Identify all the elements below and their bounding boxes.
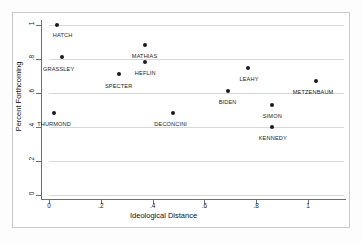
data-point-label: SIMON (263, 113, 282, 119)
y-tick-mark (36, 195, 42, 196)
data-point-label: BIDEN (219, 99, 237, 105)
x-tick-label: .4 (143, 202, 163, 209)
y-tick-mark (36, 25, 42, 26)
data-point-label: LEAHY (239, 76, 258, 82)
data-point (270, 125, 274, 129)
y-axis-line (41, 20, 42, 200)
data-point (143, 43, 147, 47)
data-point-label: SPECTER (105, 83, 132, 89)
data-point-label: HATCH (53, 32, 73, 38)
scatter-plot-figure: 0.2.4.6.81 0.2.4.6.81 HATCHGRASSLEYTHURM… (0, 0, 362, 242)
data-point-label: GRASSLEY (43, 66, 74, 72)
plot-area: 0.2.4.6.81 0.2.4.6.81 HATCHGRASSLEYTHURM… (0, 0, 362, 242)
data-point-label: HEFLIN (135, 70, 156, 76)
gridline-y (49, 161, 344, 162)
data-point (55, 23, 59, 27)
y-tick-mark (36, 59, 42, 60)
x-tick-label: .8 (246, 202, 266, 209)
x-tick-label: 0 (39, 202, 59, 209)
gridline-y (49, 127, 344, 128)
gridline-y (49, 25, 344, 26)
y-tick-label: 1 (18, 20, 34, 27)
x-tick-label: 1 (298, 202, 318, 209)
data-point (314, 79, 318, 83)
x-axis-line (41, 199, 346, 200)
y-tick-label: .2 (18, 156, 34, 163)
x-tick-label: .2 (91, 202, 111, 209)
y-axis-label: Percent Forthcoming (14, 47, 23, 147)
y-tick-mark (36, 93, 42, 94)
data-point-label: MATHIAS (132, 53, 158, 59)
data-point-label: METZENBAUM (293, 89, 334, 95)
data-point (52, 111, 56, 115)
data-point-label: KENNEDY (259, 135, 287, 141)
data-point (246, 66, 250, 70)
data-point (117, 72, 121, 76)
data-point-label: DECONCINI (154, 121, 187, 127)
x-tick-label: .6 (194, 202, 214, 209)
data-point-label: THURMOND (37, 121, 71, 127)
y-tick-label: 0 (18, 190, 34, 197)
x-axis-label: Ideological Distance (130, 211, 197, 220)
data-point (171, 111, 175, 115)
y-tick-mark (36, 161, 42, 162)
gridline-y (49, 59, 344, 60)
data-point (143, 60, 147, 64)
gridline-y (49, 195, 344, 196)
data-point (270, 103, 274, 107)
